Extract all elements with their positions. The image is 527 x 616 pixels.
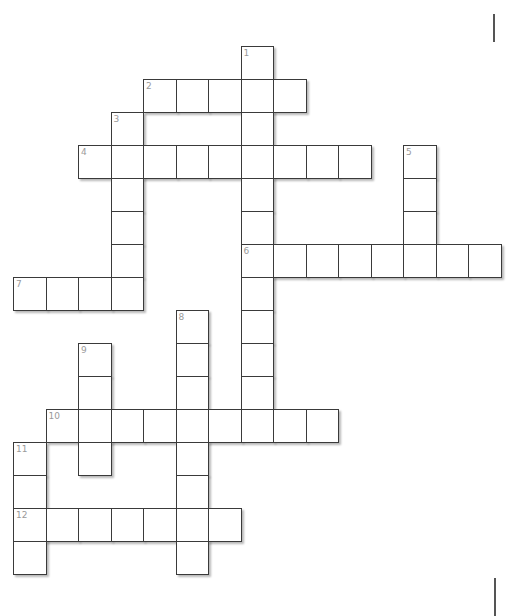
crossword-cell[interactable] <box>143 145 177 179</box>
crossword-cell[interactable]: 3 <box>111 112 145 146</box>
clue-number: 7 <box>16 279 22 289</box>
clue-number: 11 <box>16 444 27 454</box>
crossword-cell[interactable] <box>208 79 242 113</box>
crossword-cell[interactable] <box>176 508 210 542</box>
crossword-cell[interactable]: 11 <box>13 442 47 476</box>
crossword-cell[interactable] <box>176 343 210 377</box>
clue-number: 1 <box>244 48 250 58</box>
crossword-cell[interactable] <box>241 277 275 311</box>
crossword-cell[interactable] <box>46 277 80 311</box>
crossword-cell[interactable] <box>403 244 437 278</box>
crossword-cell[interactable] <box>403 211 437 245</box>
crossword-cell[interactable] <box>241 79 275 113</box>
crossword-cell[interactable] <box>13 541 47 575</box>
crossword-cell[interactable] <box>111 178 145 212</box>
crossword-cell[interactable] <box>306 145 340 179</box>
crossword-cell[interactable] <box>143 508 177 542</box>
crossword-cell[interactable] <box>111 508 145 542</box>
crossword-cell[interactable] <box>436 244 470 278</box>
crossword-cell[interactable]: 8 <box>176 310 210 344</box>
crossword-cell[interactable] <box>371 244 405 278</box>
crossword-cell[interactable] <box>176 409 210 443</box>
crossword-cell[interactable] <box>176 475 210 509</box>
clue-number: 10 <box>49 411 60 421</box>
page-edge-mark <box>493 14 495 42</box>
crossword-cell[interactable]: 7 <box>13 277 47 311</box>
crossword-cell[interactable]: 9 <box>78 343 112 377</box>
crossword-cell[interactable]: 4 <box>78 145 112 179</box>
crossword-cell[interactable]: 6 <box>241 244 275 278</box>
crossword-cell[interactable] <box>241 409 275 443</box>
crossword-cell[interactable] <box>78 409 112 443</box>
crossword-cell[interactable] <box>241 211 275 245</box>
crossword-cell[interactable] <box>111 145 145 179</box>
crossword-cell[interactable] <box>78 277 112 311</box>
crossword-cell[interactable] <box>176 442 210 476</box>
crossword-cell[interactable] <box>13 475 47 509</box>
crossword-cell[interactable] <box>176 145 210 179</box>
crossword-cell[interactable] <box>176 541 210 575</box>
crossword-cell[interactable] <box>241 376 275 410</box>
crossword-cell[interactable] <box>143 409 177 443</box>
crossword-cell[interactable] <box>176 79 210 113</box>
crossword-cell[interactable]: 1 <box>241 46 275 80</box>
crossword-cell[interactable] <box>208 409 242 443</box>
clue-number: 8 <box>179 312 185 322</box>
crossword-cell[interactable] <box>111 244 145 278</box>
crossword-cell[interactable] <box>241 145 275 179</box>
crossword-cell[interactable] <box>338 244 372 278</box>
page-edge-mark <box>494 578 496 616</box>
crossword-cell[interactable] <box>241 343 275 377</box>
crossword-cell[interactable] <box>241 178 275 212</box>
crossword-cell[interactable]: 10 <box>46 409 80 443</box>
clue-number: 9 <box>81 345 87 355</box>
crossword-cell[interactable] <box>111 211 145 245</box>
crossword-cell[interactable] <box>338 145 372 179</box>
crossword-cell[interactable] <box>273 244 307 278</box>
crossword-cell[interactable] <box>208 145 242 179</box>
crossword-cell[interactable]: 5 <box>403 145 437 179</box>
crossword-cell[interactable] <box>273 409 307 443</box>
clue-number: 3 <box>114 114 120 124</box>
crossword-grid: 123456789101112 <box>0 0 527 616</box>
clue-number: 12 <box>16 510 27 520</box>
crossword-cell[interactable] <box>306 244 340 278</box>
crossword-cell[interactable] <box>46 508 80 542</box>
clue-number: 4 <box>81 147 87 157</box>
crossword-cell[interactable] <box>111 409 145 443</box>
crossword-cell[interactable] <box>241 310 275 344</box>
crossword-cell[interactable]: 12 <box>13 508 47 542</box>
crossword-cell[interactable] <box>306 409 340 443</box>
crossword-cell[interactable] <box>273 145 307 179</box>
crossword-cell[interactable] <box>208 508 242 542</box>
crossword-cell[interactable] <box>403 178 437 212</box>
crossword-cell[interactable] <box>273 79 307 113</box>
crossword-cell[interactable] <box>78 508 112 542</box>
crossword-cell[interactable] <box>78 376 112 410</box>
crossword-cell[interactable] <box>241 112 275 146</box>
crossword-cell[interactable] <box>78 442 112 476</box>
crossword-cell[interactable] <box>468 244 502 278</box>
crossword-cell[interactable]: 2 <box>143 79 177 113</box>
clue-number: 6 <box>244 246 250 256</box>
crossword-cell[interactable] <box>111 277 145 311</box>
crossword-cell[interactable] <box>176 376 210 410</box>
clue-number: 5 <box>406 147 412 157</box>
clue-number: 2 <box>146 81 152 91</box>
